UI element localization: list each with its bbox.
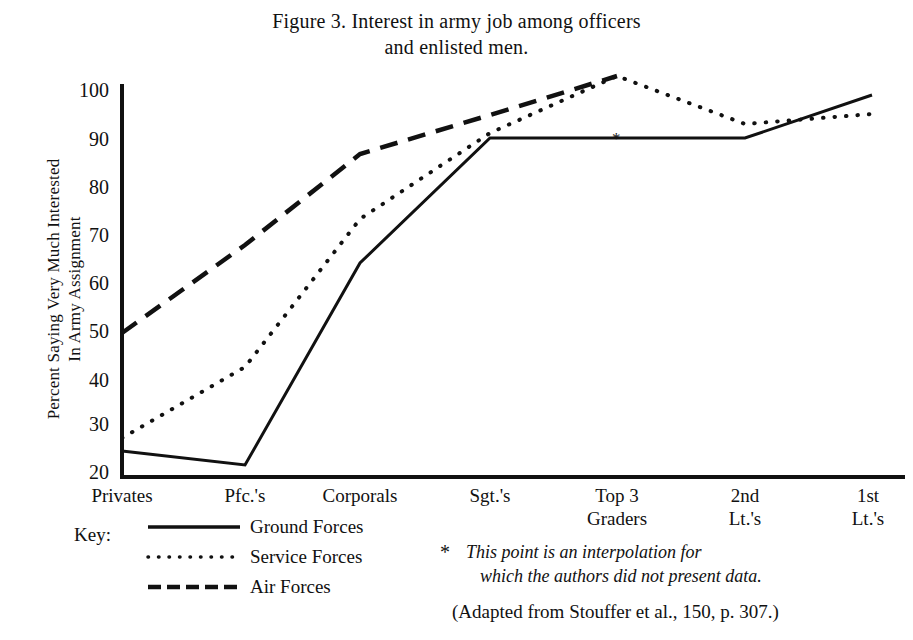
x-tick-1st-lts-line-2: Lt.'s	[793, 507, 913, 530]
legend-label-ground-forces: Ground Forces	[250, 512, 363, 542]
footnote-star: *	[440, 540, 450, 564]
series-ground-forces	[122, 95, 872, 465]
x-tick-1st-lts-line-1: 1st	[793, 484, 913, 507]
legend-swatch-solid-line-icon	[146, 520, 242, 534]
legend-row-ground-forces: Ground Forces	[146, 512, 363, 542]
plot-area	[0, 0, 913, 640]
figure-container: Figure 3. Interest in army job among off…	[0, 0, 913, 640]
source-citation: (Adapted from Stouffer et al., 150, p. 3…	[452, 600, 779, 624]
legend-label-service-forces: Service Forces	[250, 542, 362, 572]
legend-key-label: Key:	[74, 520, 111, 550]
legend-row-service-forces: Service Forces	[146, 542, 363, 572]
footnote-line-2: which the authors did not present data.	[466, 564, 762, 588]
legend-swatch-dashed-line-icon	[146, 580, 242, 594]
legend-swatch-dotted-line-icon	[146, 550, 242, 564]
legend-rows: Ground Forces Service Forces Air Forces	[146, 512, 363, 602]
interpolation-star-marker: *	[612, 130, 621, 147]
legend-label-air-forces: Air Forces	[250, 572, 331, 602]
x-tick-1st-lts: 1st Lt.'s	[793, 484, 913, 530]
footnote: * This point is an interpolation for whi…	[466, 540, 762, 588]
series-service-forces	[122, 76, 872, 438]
axis-lines	[122, 84, 905, 477]
x-tick-corporals-line-1: Corporals	[285, 484, 435, 507]
series-air-forces	[122, 76, 617, 333]
footnote-line-1: This point is an interpolation for	[466, 540, 762, 564]
legend-row-air-forces: Air Forces	[146, 572, 363, 602]
x-tick-corporals: Corporals	[285, 484, 435, 507]
